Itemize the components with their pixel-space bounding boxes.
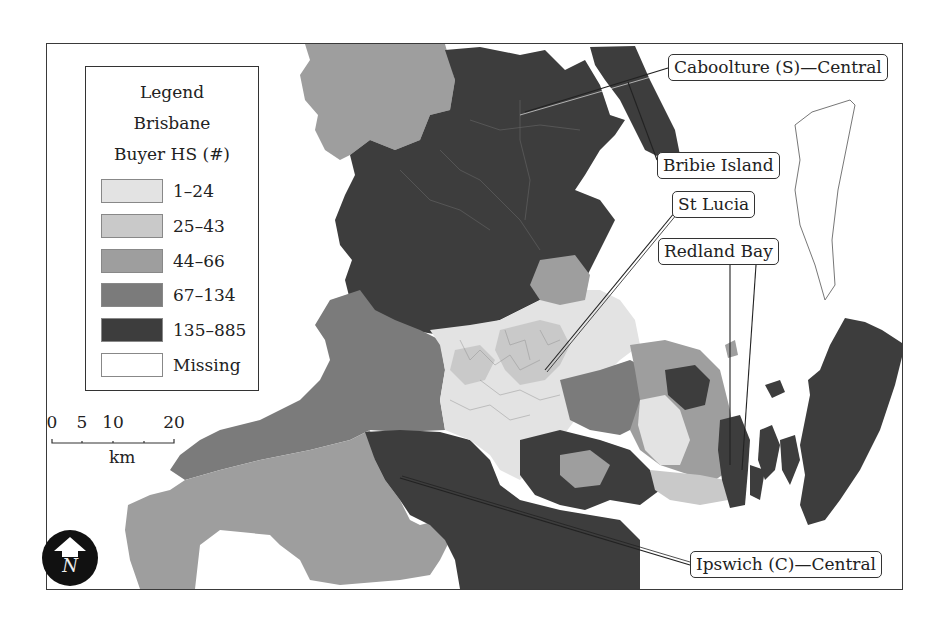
legend-swatch (101, 283, 163, 307)
legend-label: 25–43 (173, 216, 225, 236)
island-moreton-missing (795, 100, 855, 300)
legend-item: 25–43 (101, 213, 225, 239)
legend-label: 44–66 (173, 251, 225, 271)
legend-item: 135–885 (101, 317, 246, 343)
north-letter: N (42, 555, 98, 576)
legend-swatch (101, 249, 163, 273)
legend-subtitle-variable: Buyer HS (#) (86, 139, 258, 170)
scale-tick-label: 5 (77, 412, 88, 432)
callout-st-lucia: St Lucia (672, 191, 755, 218)
legend-label: 1–24 (173, 181, 214, 201)
scale-tick-label: 10 (102, 412, 124, 432)
callout-bribie-island: Bribie Island (657, 152, 780, 179)
legend-label: 67–134 (173, 285, 236, 305)
legend-swatch (101, 318, 163, 342)
callout-redland-bay: Redland Bay (658, 238, 779, 265)
legend-subtitle-region: Brisbane (86, 108, 258, 139)
north-arrow-icon: N (42, 530, 98, 586)
scale-tick-label: 20 (163, 412, 185, 432)
legend-item: Missing (101, 352, 241, 378)
legend-item: 67–134 (101, 282, 236, 308)
island-bay-3 (780, 435, 800, 485)
legend-swatch (101, 353, 163, 377)
legend-swatch (101, 214, 163, 238)
island-bay-5 (725, 340, 738, 358)
legend-item: 44–66 (101, 248, 225, 274)
island-bay-4 (750, 465, 765, 500)
legend-title: Legend (86, 77, 258, 108)
map-legend: Legend Brisbane Buyer HS (#) 1–24 25–43 … (85, 66, 259, 391)
island-stradbroke-135-885 (800, 318, 905, 525)
legend-label: Missing (173, 355, 241, 375)
island-bay-1 (765, 380, 785, 398)
legend-swatch (101, 179, 163, 203)
legend-label: 135–885 (173, 320, 246, 340)
legend-item: 1–24 (101, 178, 214, 204)
scale-bar: 0 5 10 20 km (46, 412, 196, 472)
callout-ipswich: Ipswich (C)—Central (690, 551, 882, 578)
scale-tick-label: 0 (47, 412, 58, 432)
scale-unit: km (109, 447, 135, 467)
callout-caboolture: Caboolture (S)—Central (668, 54, 888, 81)
